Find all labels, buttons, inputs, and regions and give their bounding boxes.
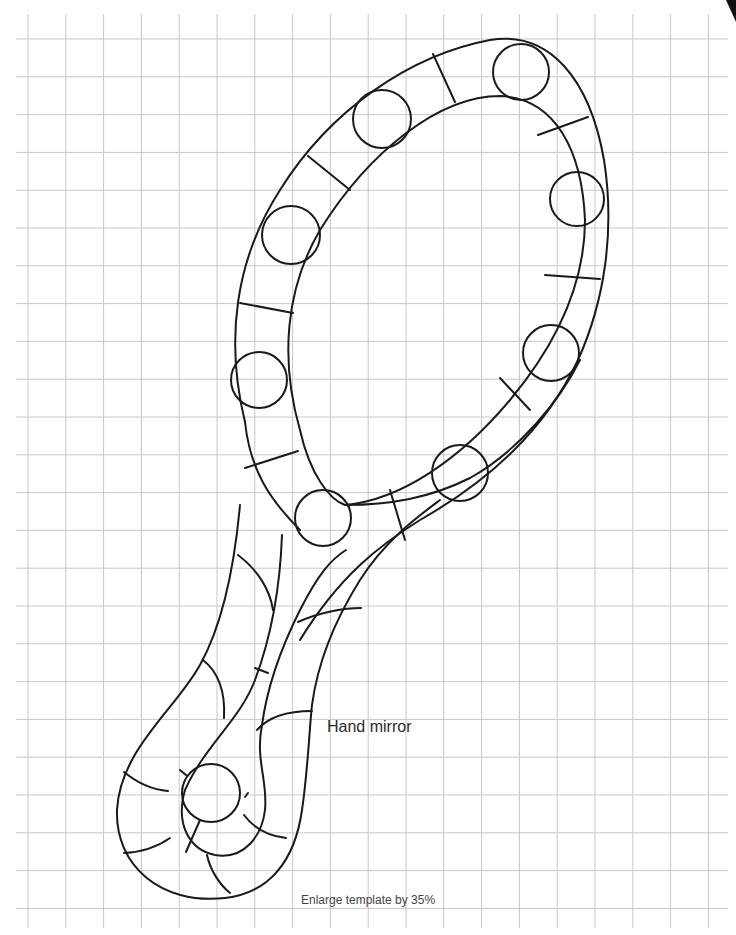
jewel-circle [182,764,240,822]
hand-mirror-pattern [117,39,608,899]
handle-divider [298,608,361,622]
jewel-circle [295,490,351,546]
graph-paper-grid [16,14,728,928]
handle-divider [257,711,312,730]
handle-divider [245,793,248,797]
jewel-circle [353,90,411,148]
jewel-circle [493,44,549,100]
handle-divider [207,855,230,893]
frame-divider [390,490,405,540]
handle-divider [244,815,286,838]
jewel-circle [523,325,579,381]
frame-lower-edge [245,422,300,530]
jewel-circle [231,352,287,408]
handle-divider [238,555,273,610]
pattern-canvas [0,0,736,935]
handle-left-outer [117,500,440,899]
jewel-circle [550,172,604,226]
handle-divider [203,660,224,718]
handle-divider [124,772,168,791]
enlarge-note: Enlarge template by 35% [301,893,435,907]
frame-bottom [345,360,580,505]
frame-divider [308,156,350,190]
handle-divider [180,770,186,775]
frame-divider [545,275,600,279]
mirror-glass-inner [288,96,585,505]
handle-divider [124,838,170,853]
pattern-title: Hand mirror [327,718,411,736]
frame-divider [240,303,293,313]
jewel-circle [262,206,320,264]
